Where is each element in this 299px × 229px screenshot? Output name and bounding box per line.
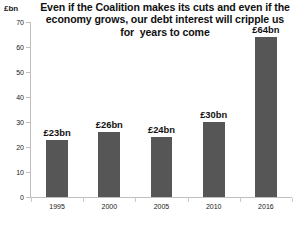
- bar-value-label: £64bn: [241, 24, 291, 35]
- y-axis-tick-mark: [26, 47, 30, 48]
- x-axis-category-label: 2010: [188, 203, 240, 210]
- y-axis-tick-label: 20: [2, 144, 24, 151]
- bar-slot[interactable]: £23bn: [46, 22, 68, 197]
- y-axis-tick-mark: [26, 172, 30, 173]
- y-axis-tick-mark: [26, 122, 30, 123]
- x-axis-category-labels: 19952000200520102016: [31, 203, 292, 217]
- x-axis-tick-mark: [135, 198, 136, 202]
- y-axis-tick-label: 40: [2, 94, 24, 101]
- bar[interactable]: [255, 37, 277, 197]
- y-axis-tick-label: 0: [2, 194, 24, 201]
- x-axis-tick-mark: [83, 198, 84, 202]
- y-axis-unit-label: £bn: [4, 4, 18, 13]
- y-axis-tick-mark: [26, 22, 30, 23]
- bar-slot[interactable]: £64bn: [255, 22, 277, 197]
- y-axis-tick-label: 30: [2, 119, 24, 126]
- bar[interactable]: [46, 140, 68, 198]
- x-axis-tick-mark: [188, 198, 189, 202]
- bar[interactable]: [151, 137, 173, 197]
- bar-value-label: £30bn: [189, 109, 239, 120]
- bar-slot[interactable]: £30bn: [203, 22, 225, 197]
- y-axis-tick-mark: [26, 197, 30, 198]
- bar-value-label: £24bn: [137, 124, 187, 135]
- x-axis-tick-mark: [240, 198, 241, 202]
- y-axis-tick-label: 70: [2, 19, 24, 26]
- x-axis-line: [30, 197, 292, 198]
- bars-layer: £23bn£26bn£24bn£30bn£64bn: [31, 22, 292, 197]
- y-axis-tick-mark: [26, 147, 30, 148]
- bar-slot[interactable]: £24bn: [151, 22, 173, 197]
- bar-chart: Even if the Coalition makes its cuts and…: [0, 0, 299, 229]
- y-axis-tick-label: 10: [2, 169, 24, 176]
- bar-slot[interactable]: £26bn: [98, 22, 120, 197]
- x-axis-category-label: 1995: [31, 203, 83, 210]
- y-axis-tick-label: 60: [2, 44, 24, 51]
- x-axis-category-label: 2016: [240, 203, 292, 210]
- y-axis-tick-mark: [26, 72, 30, 73]
- x-axis-category-label: 2000: [83, 203, 135, 210]
- bar-value-label: £26bn: [84, 119, 134, 130]
- bar[interactable]: [203, 122, 225, 197]
- y-axis-tick-mark: [26, 97, 30, 98]
- y-axis-tick-label: 50: [2, 69, 24, 76]
- x-axis-category-label: 2005: [135, 203, 187, 210]
- x-axis-tick-mark: [292, 198, 293, 202]
- x-axis-tick-mark: [31, 198, 32, 202]
- bar[interactable]: [98, 132, 120, 197]
- bar-value-label: £23bn: [32, 127, 82, 138]
